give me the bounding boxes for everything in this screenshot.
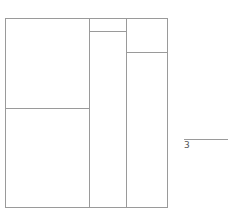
outer-right-edge — [167, 18, 168, 208]
outer-bottom-edge — [5, 207, 167, 208]
legend-line — [184, 139, 228, 140]
divider-left-middle — [89, 18, 90, 208]
legend-label: 3 — [184, 141, 190, 150]
split-left-column — [5, 108, 89, 109]
split-middle-column — [89, 31, 126, 32]
split-right-column — [126, 52, 167, 53]
divider-middle-right — [126, 18, 127, 208]
outer-top-edge — [5, 18, 167, 19]
outer-left-edge — [5, 18, 6, 208]
